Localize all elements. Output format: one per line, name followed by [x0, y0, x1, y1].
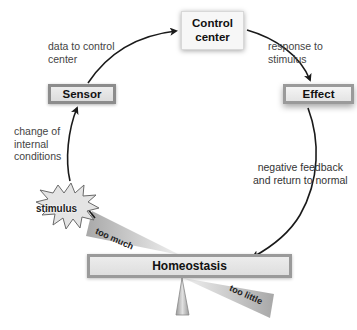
effect-label: Effect: [303, 88, 335, 100]
negative-feedback-label: negative feedback and return to normal: [253, 161, 348, 186]
change-of-conditions-label: change of internal conditions: [14, 125, 61, 163]
homeostasis-box: Homeostasis: [87, 254, 292, 278]
sensor-box: Sensor: [48, 84, 116, 104]
arrow-stimulus-to-sensor: [68, 108, 77, 181]
response-to-stimulus-label: response to stimulus: [268, 40, 323, 65]
stimulus-label: stimulus: [36, 203, 77, 214]
control-center-label: Control center: [182, 17, 243, 43]
homeostasis-label: Homeostasis: [152, 259, 227, 273]
effect-box: Effect: [283, 84, 354, 104]
sensor-label: Sensor: [63, 88, 102, 100]
homeostasis-diagram: Control center Sensor Effect Homeostasis…: [0, 0, 357, 330]
control-center-box: Control center: [181, 11, 244, 50]
fulcrum-icon: [176, 278, 189, 315]
data-to-control-label: data to control center: [48, 40, 115, 65]
